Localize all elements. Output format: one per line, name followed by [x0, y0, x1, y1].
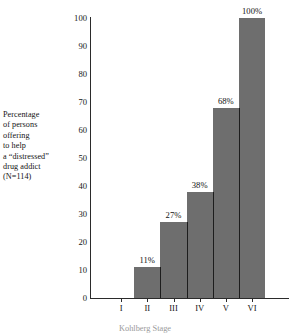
y-tick-label: 80 [78, 70, 87, 79]
x-tick-mark [174, 298, 175, 302]
bar-divider [160, 267, 161, 298]
caption-line-5: a “distressed” [3, 152, 75, 162]
bar-value-label: 27% [166, 211, 182, 220]
y-tick-label: 30 [78, 210, 87, 219]
caption-line-3: offering [3, 131, 75, 141]
y-tick-label: 50 [78, 154, 87, 163]
y-tick-label: 40 [78, 182, 87, 191]
bar-value-label: 68% [218, 97, 234, 106]
plot-area: 0102030405060708090100 11%27%38%68%100% … [90, 18, 289, 298]
y-tick-label: 70 [78, 98, 87, 107]
y-tick-label: 10 [78, 266, 87, 275]
x-tick-label-iv: IV [195, 304, 204, 313]
x-tick-mark [226, 298, 227, 302]
bar-value-label: 11% [140, 256, 155, 265]
x-tick-mark [121, 298, 122, 302]
bar-divider [187, 222, 188, 298]
bar-vi [239, 18, 265, 298]
x-tick-mark [200, 298, 201, 302]
bar-value-label: 100% [242, 7, 262, 16]
x-axis-line [90, 298, 289, 299]
x-tick-mark [252, 298, 253, 302]
bar-divider [239, 108, 240, 298]
caption-line-7: (N=114) [3, 172, 75, 182]
y-tick-label: 20 [78, 238, 87, 247]
y-tick-label: 90 [78, 42, 87, 51]
x-tick-label-vi: VI [248, 304, 257, 313]
bar-divider [213, 192, 214, 298]
y-tick-label: 60 [78, 126, 87, 135]
x-axis-title: Kohlberg Stage [0, 324, 290, 333]
x-tick-label-ii: II [144, 304, 150, 313]
bar-value-label: 38% [192, 181, 208, 190]
bar-iv [187, 192, 213, 298]
caption-line-1: Percentage [3, 110, 75, 120]
bar-ii [134, 267, 160, 298]
x-tick-label-v: V [223, 304, 229, 313]
bar-series: 11%27%38%68%100% [90, 18, 289, 298]
caption-line-2: of persons [3, 120, 75, 130]
x-tick-mark [147, 298, 148, 302]
caption-line-4: to help [3, 141, 75, 151]
x-tick-label-iii: III [169, 304, 178, 313]
y-tick-label: 0 [83, 294, 87, 303]
x-tick-label-i: I [120, 304, 123, 313]
y-axis-caption: Percentage of persons offering to help a… [3, 110, 75, 183]
bar-v [213, 108, 239, 298]
caption-line-6: drug addict [3, 162, 75, 172]
y-tick-label: 100 [74, 14, 87, 23]
bar-iii [160, 222, 186, 298]
